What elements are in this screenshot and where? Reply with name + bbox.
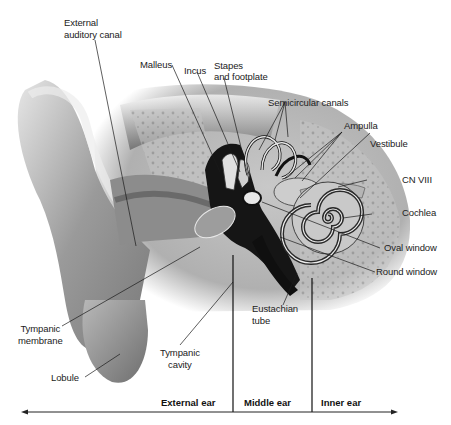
- lobule: [82, 300, 148, 383]
- label-lobule: Lobule: [51, 372, 79, 384]
- label-malleus: Malleus: [140, 59, 172, 71]
- label-incus: Incus: [184, 65, 206, 77]
- label-eustachian-tube: Eustachian tube: [252, 303, 298, 327]
- ear-anatomy-diagram: External auditory canal Malleus Incus St…: [0, 0, 451, 425]
- region-label-inner-ear: Inner ear: [321, 397, 361, 408]
- region-label-external-ear: External ear: [161, 397, 215, 408]
- label-stapes: Stapes and footplate: [214, 60, 268, 82]
- label-external-auditory-canal: External auditory canal: [64, 17, 122, 41]
- stapes: [243, 191, 261, 205]
- label-round-window: Round window: [376, 266, 437, 278]
- label-cochlea: Cochlea: [402, 207, 436, 219]
- label-tympanic-membrane: Tympanic membrane: [18, 323, 63, 347]
- label-cn-viii: CN VIII: [402, 174, 432, 186]
- label-vestibule: Vestibule: [370, 138, 408, 150]
- arrow-left-icon: [21, 410, 28, 415]
- label-semicircular-canals: Semicircular canals: [268, 97, 348, 109]
- label-tympanic-cavity: Tympanic cavity: [160, 347, 200, 371]
- label-ampulla: Ampulla: [344, 120, 378, 132]
- region-label-middle-ear: Middle ear: [244, 397, 291, 408]
- label-oval-window: Oval window: [384, 242, 437, 254]
- arrow-right-icon: [391, 410, 398, 415]
